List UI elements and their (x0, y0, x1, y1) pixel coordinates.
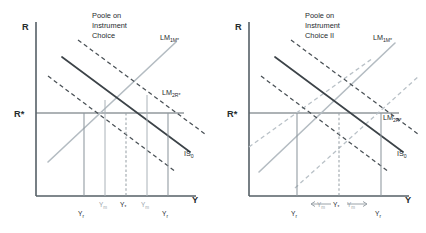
arrow-ym-right-label: Ym (347, 201, 355, 210)
lm-money-rule-label: LM1M* (373, 33, 392, 43)
x-axis-label: Y (405, 195, 411, 205)
tick-label-y-r-high: Yr (162, 210, 168, 219)
panel-poole-instrument-choice-ii: Poole on Instrument Choice II R Y R* (213, 0, 426, 233)
tick-label-y-m-high: Ym (141, 201, 149, 210)
lm-money-rule-label: LM1M* (160, 33, 179, 43)
panel-title-line-1: Poole on (92, 11, 121, 20)
tick-label-y-r-low: Yr (78, 210, 84, 219)
is-curve-label: IS0 (184, 149, 194, 159)
rstar-label: R* (227, 109, 238, 119)
x-axis-label: Y (192, 195, 198, 205)
tick-label-y-m-low: Ym (99, 201, 107, 210)
poole-instrument-choice-figure: Poole on Instrument Choice R Y R* (0, 0, 426, 233)
y-axis-label: R (22, 22, 29, 32)
tick-label-y-star: Y* (333, 201, 339, 210)
panel-title-line-2: Instrument (92, 21, 127, 30)
panel-title-line-3: Choice II (305, 31, 334, 40)
tick-label-y-r-low: Yr (291, 210, 297, 219)
rstar-label: R* (14, 109, 25, 119)
is-curve-low-shock (48, 76, 176, 172)
panel-title-line-2: Instrument (305, 21, 340, 30)
panel-poole-instrument-choice: Poole on Instrument Choice R Y R* (0, 0, 213, 233)
tick-label-y-star: Y* (120, 201, 126, 210)
tick-label-y-r-high: Yr (375, 210, 381, 219)
panel-title-line-1: Poole on (305, 11, 334, 20)
lm-interest-rule-label: LM2R* (383, 113, 402, 123)
lm-interest-rule-label: LM2R* (162, 88, 181, 98)
lm-money-rule-line (259, 43, 395, 172)
arrow-ym-left-label: Ym (317, 201, 325, 210)
panel-title-line-3: Choice (92, 31, 115, 40)
is-curve-high-shock (78, 40, 205, 134)
is-curve-label: IS0 (397, 149, 407, 159)
lm-money-rule-high-shock (295, 76, 419, 188)
y-axis-label: R (235, 22, 242, 32)
